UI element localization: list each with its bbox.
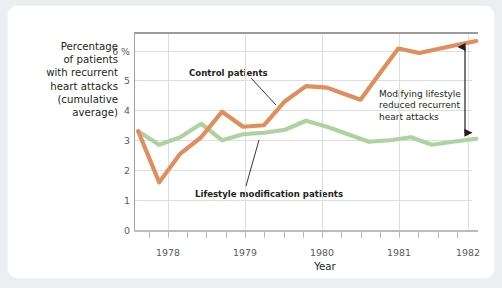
gridlines — [134, 52, 472, 201]
chart-card: Percentage of patients with recurrent he… — [8, 6, 494, 278]
leader-line-lifestyle — [246, 140, 259, 186]
series-line-control-patients — [138, 41, 476, 182]
leader-line-control — [251, 78, 276, 105]
chart-plot — [8, 6, 494, 278]
series-line-lifestyle-modification — [138, 121, 476, 145]
